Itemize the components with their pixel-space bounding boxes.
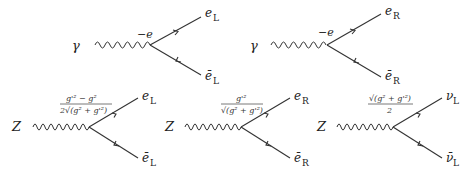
fermion-line-in (393, 127, 442, 158)
z-propagator (337, 124, 393, 130)
fermion-in-label: ē (294, 151, 301, 165)
fermion-out-sub: L (213, 13, 219, 23)
boson-label: γ (72, 38, 80, 53)
fermion-in-sub: L (453, 158, 459, 168)
coupling-numerator: √(g² + g'²) (369, 94, 411, 103)
arrow-icon (264, 113, 268, 118)
fermion-in-label: ē (385, 69, 392, 83)
feynman-diagram-photon-eL: γ −e e L ē L (72, 6, 219, 86)
fermion-in-sub: R (393, 76, 400, 86)
feynman-diagram-Z-eR: Z g'² √(g² + g'²) e R ē R (164, 89, 309, 168)
fermion-line-in (89, 127, 138, 158)
feynman-diagram-Z-eL: Z g'² − g² 2√(g² + g'²) e L ē L (11, 89, 156, 168)
fermion-out-sub: R (302, 96, 309, 106)
fermion-out-sub: R (393, 11, 400, 21)
coupling-numerator: g'² − g² (66, 94, 97, 103)
boson-label: Z (11, 119, 22, 134)
arrow-icon (416, 113, 420, 118)
arrow-icon (354, 58, 359, 63)
boson-label: γ (250, 38, 258, 53)
photon-propagator (271, 42, 326, 48)
fermion-out-sub: L (453, 96, 459, 106)
fermion-out-label: e (205, 6, 212, 20)
z-propagator (185, 124, 241, 130)
coupling-denominator: 2√(g² + g'²) (59, 106, 107, 115)
fermion-in-sub: R (302, 158, 309, 168)
coupling-denominator: 2 (386, 106, 392, 115)
photon-propagator (95, 42, 150, 48)
fermion-out-label: e (142, 89, 149, 103)
fermion-out-label: e (294, 89, 301, 103)
fermion-in-label: ē (205, 69, 212, 83)
fermion-out-label: e (385, 4, 392, 18)
coupling-numerator: g'² (236, 94, 247, 103)
arrow-icon (176, 57, 181, 62)
fermion-line-in (241, 127, 290, 158)
arrow-icon (112, 113, 116, 118)
fermion-in-sub: L (213, 76, 219, 86)
fermion-line-in (150, 45, 201, 75)
fermion-in-label: ē (142, 151, 149, 165)
fermion-line-out (327, 14, 381, 45)
feynman-diagram-Z-nuL: Z √(g² + g'²) 2 ν L ν̄ L (316, 89, 459, 168)
coupling-label: −e (137, 28, 153, 41)
coupling-denominator: √(g² + g'²) (221, 106, 263, 115)
boson-label: Z (316, 119, 327, 134)
feynman-diagram-photon-eR: γ −e e R ē R (250, 4, 400, 86)
z-propagator (33, 124, 89, 130)
fermion-in-sub: L (150, 158, 156, 168)
fermion-out-sub: L (150, 96, 156, 106)
coupling-label: −e (318, 26, 334, 39)
boson-label: Z (164, 119, 175, 134)
